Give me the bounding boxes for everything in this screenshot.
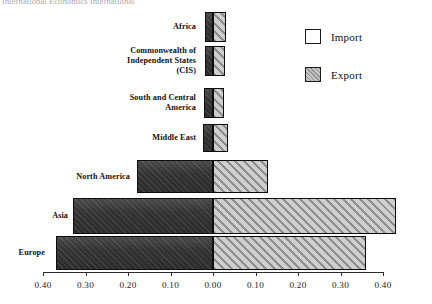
bar-export — [213, 236, 366, 270]
bar-import — [73, 198, 213, 234]
category-label: Asia — [0, 211, 68, 221]
x-axis-tick-label: 0.40 — [366, 280, 400, 290]
x-axis-tick-label: 0.10 — [239, 280, 273, 290]
bar-import — [204, 88, 213, 118]
x-axis-tick — [341, 272, 342, 276]
legend-label-export: Export — [331, 69, 362, 81]
x-axis-tick-label: 0.10 — [154, 280, 188, 290]
x-axis-tick-label: 0.00 — [196, 280, 230, 290]
category-label: South and Central America — [76, 93, 196, 113]
x-axis-tick-label: 0.30 — [69, 280, 103, 290]
x-axis-tick — [43, 272, 44, 276]
bar-import — [56, 236, 213, 270]
legend-item-import: Import — [305, 29, 362, 44]
bar-chart-plot-area: AfricaCommonwealth of Independent States… — [0, 0, 432, 304]
x-axis-tick — [213, 272, 214, 276]
legend-swatch-import-icon — [305, 29, 321, 44]
category-label: Commonwealth of Independent States (CIS) — [76, 46, 196, 76]
category-label: Africa — [76, 22, 196, 32]
chart-root: International Economics International Af… — [0, 0, 432, 304]
bar-export — [213, 12, 226, 42]
bar-export — [213, 160, 268, 193]
bar-import — [205, 12, 213, 42]
bar-import — [137, 160, 214, 193]
bar-export — [213, 88, 224, 118]
category-label: North America — [10, 172, 130, 182]
x-axis-tick-label: 0.20 — [281, 280, 315, 290]
x-axis-tick — [298, 272, 299, 276]
x-axis-tick — [256, 272, 257, 276]
category-label: Europe — [0, 248, 45, 258]
bar-export — [213, 124, 228, 152]
legend-label-import: Import — [331, 31, 362, 43]
legend-swatch-export-icon — [305, 67, 321, 82]
bar-import — [203, 124, 213, 152]
x-axis-tick — [86, 272, 87, 276]
x-axis-tick-label: 0.20 — [111, 280, 145, 290]
bar-export — [213, 46, 225, 76]
x-axis-tick — [128, 272, 129, 276]
x-axis-tick — [383, 272, 384, 276]
bar-import — [205, 46, 213, 76]
legend-item-export: Export — [305, 67, 362, 82]
bar-export — [213, 198, 396, 234]
x-axis-tick — [171, 272, 172, 276]
category-label: Middle East — [76, 133, 196, 143]
x-axis-tick-label: 0.30 — [324, 280, 358, 290]
x-axis-tick-label: 0.40 — [26, 280, 60, 290]
